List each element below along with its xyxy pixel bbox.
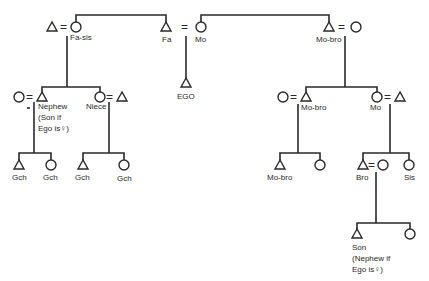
label-nephew-note: (Son if	[38, 113, 62, 122]
label-nephew: Nephew	[38, 102, 68, 111]
marriage-sign: =	[26, 90, 33, 104]
marriage-sign: =	[290, 90, 297, 104]
wife-circle-icon	[278, 92, 288, 102]
label-mo-bro-top: Mo-bro	[316, 35, 342, 44]
mo-circle-icon	[372, 92, 382, 102]
label-fa-sis: Fa-sis	[70, 33, 92, 42]
fa-triangle-icon	[161, 22, 171, 31]
gch-triangle-icon	[14, 160, 24, 169]
sis-circle-icon	[404, 160, 414, 170]
label-fa: Fa	[162, 35, 172, 44]
son-triangle-icon	[352, 229, 362, 238]
mo-bro-couple: Mo-bro =	[316, 20, 361, 44]
label-son-note-2: Ego is♀)	[352, 265, 383, 274]
label-niece: Niece	[86, 102, 107, 111]
label-sis: Sis	[404, 173, 415, 182]
wife-circle-icon	[14, 92, 24, 102]
husband-triangle-icon	[395, 92, 405, 101]
label-gch: Gch	[12, 173, 27, 182]
fa-sis-couple: = Fa-sis	[47, 20, 92, 42]
label-gch: Gch	[117, 174, 132, 183]
descent-line-mo-mid	[363, 104, 409, 160]
descent-line-fa-sis	[42, 36, 100, 92]
sibling-line-fa	[76, 15, 166, 22]
label-ego: EGO	[177, 92, 195, 101]
label-mo-bro-low: Mo-bro	[267, 173, 293, 182]
label-mo: Mo	[195, 35, 207, 44]
label-mo-bro-mid: Mo-bro	[301, 103, 327, 112]
parents-couple: Fa = Mo	[161, 20, 207, 44]
husband-triangle-icon	[47, 22, 57, 31]
bro-triangle-icon	[358, 160, 368, 169]
label-gch: Gch	[75, 173, 90, 182]
label-gch: Gch	[43, 173, 58, 182]
label-bro: Bro	[356, 173, 369, 182]
descent-line-mo-bro-mid	[280, 104, 320, 160]
marriage-sign: =	[368, 158, 375, 172]
wife-circle-icon	[378, 160, 388, 170]
marriage-sign: =	[106, 90, 113, 104]
label-son-note: (Nephew if	[352, 254, 391, 263]
marriage-sign: =	[181, 20, 188, 34]
marriage-sign: =	[384, 90, 391, 104]
descent-line-mo-bro	[306, 36, 377, 92]
nephew-couple: = Nephew (Son if Ego is♀)	[14, 90, 69, 133]
niece-couple: = Niece	[86, 90, 127, 111]
mo-bro-triangle-icon	[324, 22, 334, 31]
female-circle-icon	[315, 160, 325, 170]
marriage-sign: =	[60, 20, 67, 34]
niece-circle-icon	[95, 92, 105, 102]
mo-circle-icon	[196, 22, 206, 32]
mo-bro-triangle-icon	[301, 92, 311, 101]
gch-circle-icon	[119, 160, 129, 170]
husband-triangle-icon	[117, 92, 127, 101]
gch-triangle-icon	[78, 160, 88, 169]
label-mo-mid: Mo	[370, 103, 382, 112]
bro-couple: = Bro	[356, 158, 388, 182]
daughter-circle-icon	[405, 229, 415, 239]
label-nephew-note-2: Ego is♀)	[38, 124, 69, 133]
fa-sis-circle-icon	[71, 22, 81, 32]
gch-circle-icon	[46, 160, 56, 170]
mo-bro-mid-couple: = Mo-bro	[278, 90, 327, 112]
mo-bro-low-triangle-icon	[275, 160, 285, 169]
nephew-triangle-icon	[37, 92, 47, 101]
label-son: Son	[352, 243, 366, 252]
mo-mid-couple: = Mo	[370, 90, 405, 112]
wife-circle-icon	[351, 22, 361, 32]
kinship-diagram: = Fa-sis Fa = Mo Mo-bro = EGO = Nephew (…	[0, 0, 429, 281]
sibling-line-mo	[201, 15, 329, 22]
marriage-sign: =	[338, 20, 345, 34]
ego-triangle-icon	[181, 78, 191, 87]
